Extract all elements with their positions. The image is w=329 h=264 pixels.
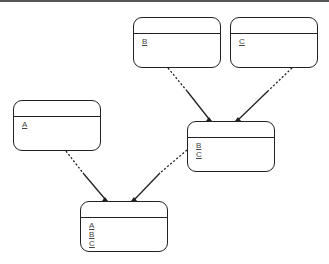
entity-bc[interactable]: B C [187,121,275,172]
key-attribute: C [239,37,245,46]
entity-a[interactable]: A [13,100,101,151]
relationship-b-bc [168,68,209,119]
relationship-bc-abc [135,150,187,199]
entity-keys: A [22,120,27,129]
entity-keys: B [142,37,147,46]
key-attribute: A [22,120,27,129]
entity-header [81,202,167,218]
relationship-c-bc [239,68,292,119]
key-attribute: B [196,141,202,150]
entity-header [134,18,220,34]
key-attribute: C [196,150,202,159]
key-attribute: B [89,230,95,239]
entity-b[interactable]: B [133,17,221,68]
key-attribute: A [89,221,95,230]
key-attribute: B [142,37,147,46]
entity-keys: C [239,37,245,46]
key-attribute: C [89,239,95,248]
entity-keys: B C [196,141,202,159]
entity-abc[interactable]: A B C [80,201,168,252]
relationship-a-abc [66,151,105,199]
entity-c[interactable]: C [230,17,318,68]
entity-header [231,18,317,34]
entity-keys: A B C [89,221,95,248]
entity-header [188,122,274,138]
entity-header [14,101,100,117]
